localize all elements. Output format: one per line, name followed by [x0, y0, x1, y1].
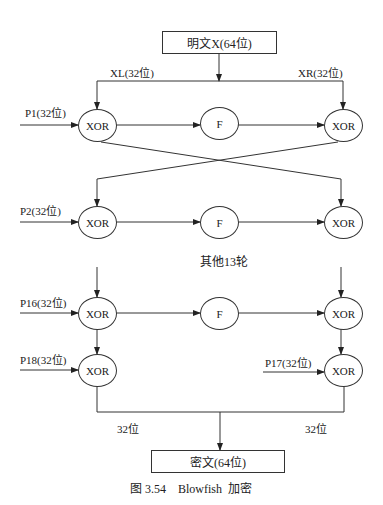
- p1-label: P1(32位): [25, 107, 66, 119]
- other-rounds-note: 其他13轮: [200, 256, 248, 268]
- xor-text: XOR: [332, 365, 355, 377]
- f-node-r16: F: [200, 297, 239, 330]
- xor-text: XOR: [86, 365, 109, 377]
- xor-node-r16-right: XOR: [324, 297, 363, 330]
- xor-text: XOR: [332, 308, 355, 320]
- xor-node-final-left: XOR: [78, 354, 117, 387]
- f-text: F: [216, 217, 222, 229]
- right-32bit-label: 32位: [305, 423, 327, 435]
- xor-node-r16-left: XOR: [78, 297, 117, 330]
- ciphertext-label: 密文(64位): [190, 453, 246, 471]
- f-text: F: [216, 118, 222, 130]
- xl-label: XL(32位): [110, 67, 154, 79]
- xor-text: XOR: [86, 120, 109, 132]
- p2-label: P2(32位): [20, 205, 61, 217]
- f-text: F: [216, 308, 222, 320]
- xor-text: XOR: [86, 217, 109, 229]
- xor-node-r2-right: XOR: [324, 206, 363, 239]
- f-node-r2: F: [200, 206, 239, 239]
- p16-label: P16(32位): [20, 297, 66, 309]
- xor-text: XOR: [332, 120, 355, 132]
- xor-node-final-right: XOR: [324, 354, 363, 387]
- p17-label: P17(32位): [265, 357, 311, 369]
- xor-node-r1-right: XOR: [324, 109, 363, 142]
- xr-label: XR(32位): [298, 67, 343, 79]
- xor-node-r2-left: XOR: [78, 206, 117, 239]
- plaintext-box: 明文X(64位): [162, 31, 277, 54]
- left-32bit-label: 32位: [117, 423, 139, 435]
- f-node-r1: F: [200, 107, 239, 140]
- xor-text: XOR: [332, 217, 355, 229]
- figure-caption: 图 3.54 Blowfish 加密: [130, 479, 252, 497]
- p18-label: P18(32位): [20, 354, 66, 366]
- ciphertext-box: 密文(64位): [151, 450, 285, 473]
- plaintext-label: 明文X(64位): [187, 34, 252, 52]
- xor-node-r1-left: XOR: [78, 109, 117, 142]
- xor-text: XOR: [86, 308, 109, 320]
